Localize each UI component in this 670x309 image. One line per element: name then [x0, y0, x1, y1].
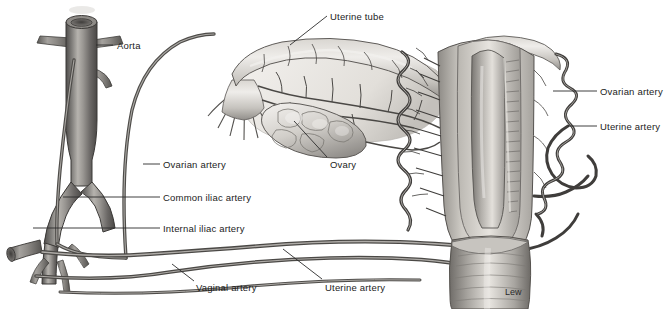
label-uterine-artery-lower: Uterine artery	[325, 283, 385, 293]
label-ovarian-artery-left: Ovarian artery	[163, 160, 226, 170]
label-uterine-artery-right: Uterine artery	[600, 122, 660, 132]
label-internal-iliac-artery: Internal iliac artery	[163, 224, 245, 234]
label-ovarian-artery-right: Ovarian artery	[600, 87, 663, 97]
label-ovary: Ovary	[330, 160, 356, 170]
leader-line-uterine-artery-lower	[283, 249, 322, 279]
artist-signature: Lew	[505, 287, 522, 297]
top-artifact	[69, 6, 95, 14]
label-common-iliac-artery: Common iliac artery	[163, 193, 251, 203]
label-uterine-tube: Uterine tube	[330, 12, 384, 22]
label-aorta: Aorta	[117, 41, 141, 51]
label-vaginal-artery: Vaginal artery	[196, 283, 257, 293]
pelvic-arteries-group	[36, 230, 520, 294]
anatomical-illustration	[0, 0, 670, 309]
anatomy-figure: AortaUterine tubeOvaryOvarian arteryComm…	[0, 0, 670, 309]
aorta-group	[6, 16, 123, 293]
vagina-group	[449, 236, 530, 309]
